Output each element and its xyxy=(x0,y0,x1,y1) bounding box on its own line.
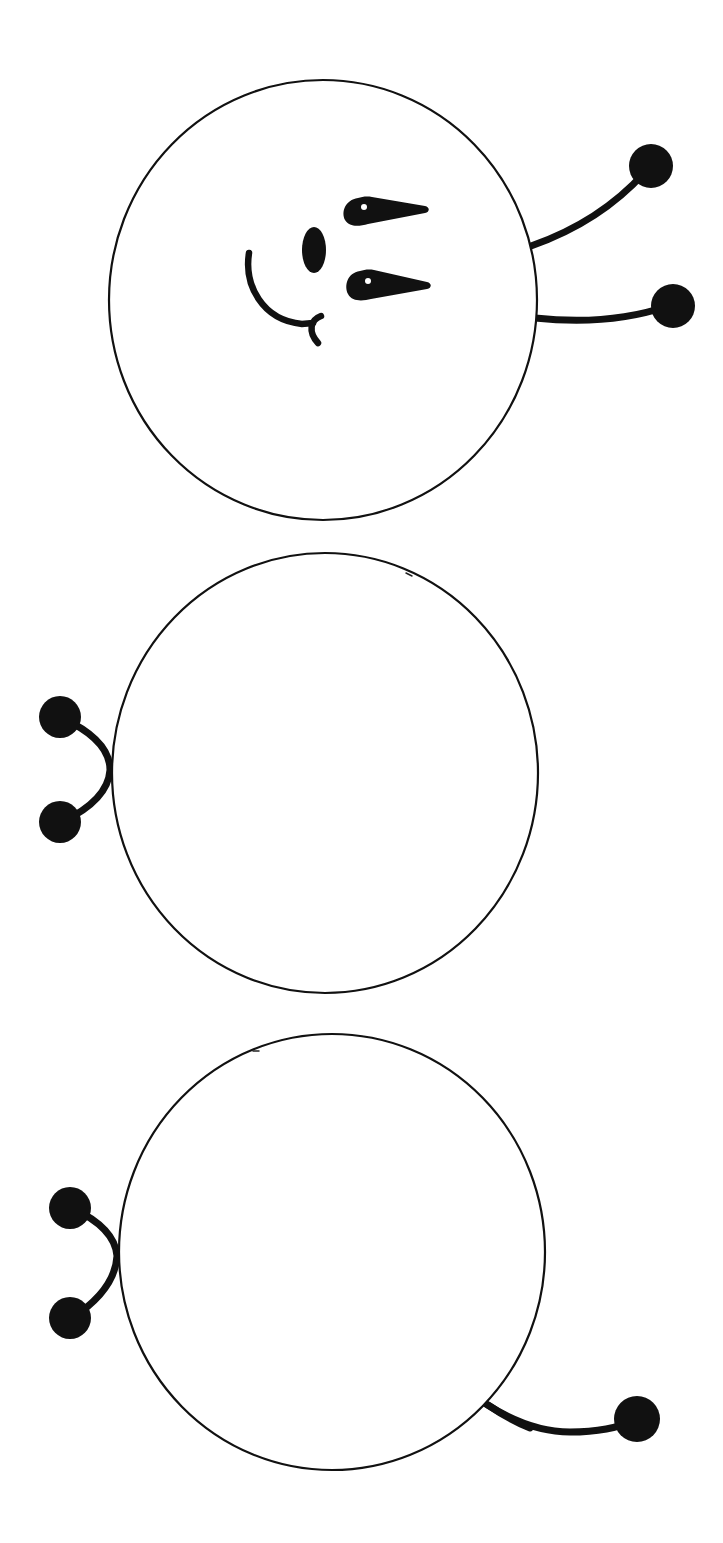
eye-lower-glint xyxy=(365,278,371,284)
eye-upper-glint xyxy=(361,204,367,210)
antenna-upper xyxy=(531,172,645,246)
body-1-legs xyxy=(39,696,110,843)
leg-1a-foot xyxy=(39,696,81,738)
body-2-legs-left xyxy=(49,1187,117,1339)
leg-1b-foot xyxy=(39,801,81,843)
body-segment-2 xyxy=(119,1034,545,1470)
head-segment xyxy=(109,80,537,520)
leg-2a-foot xyxy=(49,1187,91,1229)
leg-rear-join xyxy=(488,1405,530,1428)
antennae xyxy=(531,144,695,328)
nose xyxy=(302,227,326,273)
antenna-upper-tip xyxy=(629,144,673,188)
leg-rear-foot xyxy=(614,1396,660,1442)
leg-2b-foot xyxy=(49,1297,91,1339)
illustration-canvas xyxy=(0,0,723,1543)
antenna-lower xyxy=(535,306,668,320)
caterpillar-drawing xyxy=(0,0,723,1543)
body-segment-1 xyxy=(112,553,538,993)
antenna-lower-tip xyxy=(651,284,695,328)
